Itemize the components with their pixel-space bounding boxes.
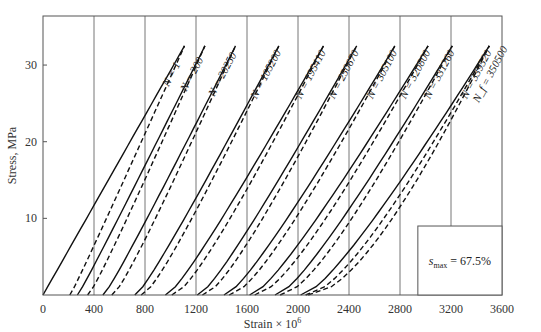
x-axis-title: Strain × 106 <box>244 316 301 331</box>
x-tick-label: 1200 <box>184 302 208 316</box>
x-tick-label: 3200 <box>439 302 463 316</box>
y-tick-label: 20 <box>25 135 37 149</box>
x-tick-label: 3600 <box>490 302 514 316</box>
y-tick-label: 30 <box>25 58 37 72</box>
cycle-label: N = 305100 <box>363 47 399 101</box>
cycle-label: N = 200 <box>177 55 206 94</box>
y-axis-ticks: 102030 <box>25 58 47 225</box>
x-tick-label: 1600 <box>235 302 259 316</box>
x-tick-label: 400 <box>85 302 103 316</box>
x-tick-label: 2400 <box>337 302 361 316</box>
y-tick-label: 10 <box>25 211 37 225</box>
x-tick-label: 2800 <box>388 302 412 316</box>
cycle-label: N = 195410 <box>292 47 328 101</box>
x-axis-ticks: 04008001200160020002400280032003600 <box>40 302 514 316</box>
x-tick-label: 800 <box>136 302 154 316</box>
stress-strain-chart: N = 1N = 200N = 20250N = 105200N = 19541… <box>0 0 541 332</box>
cycle-label: N = 20250 <box>205 50 239 99</box>
cycle-label: N = 250670 <box>325 47 361 101</box>
x-tick-label: 2000 <box>286 302 310 316</box>
cycle-label: N = 105200 <box>247 47 283 101</box>
x-tick-label: 0 <box>40 302 46 316</box>
inset-annotation-box: smax = 67.5% <box>418 226 502 295</box>
y-axis-title: Stress, MPa <box>5 126 19 184</box>
